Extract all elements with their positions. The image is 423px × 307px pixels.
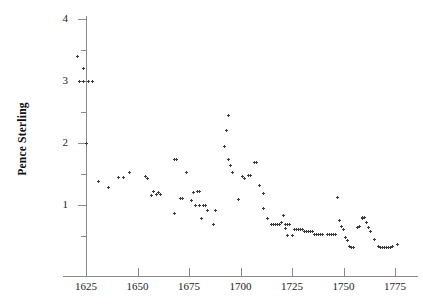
- data-point: [78, 80, 81, 83]
- x-axis-line: [63, 276, 418, 277]
- data-point: [258, 184, 261, 187]
- data-point: [358, 225, 361, 228]
- data-point: [334, 233, 337, 236]
- data-point: [82, 80, 85, 83]
- data-point: [338, 219, 341, 222]
- y-axis-title: Pence Sterling: [16, 79, 28, 199]
- x-tick-major: [241, 268, 242, 276]
- data-point: [262, 192, 265, 195]
- data-point: [200, 217, 203, 220]
- x-tick-major: [189, 268, 190, 276]
- data-point: [255, 161, 258, 164]
- data-point: [82, 67, 85, 70]
- x-tick-label: 1700: [221, 281, 261, 292]
- data-point: [284, 227, 287, 230]
- data-point: [146, 177, 149, 180]
- y-tick-label: 2: [28, 137, 68, 148]
- x-tick-major: [292, 268, 293, 276]
- data-point: [107, 186, 110, 189]
- data-point: [291, 234, 294, 237]
- y-axis-line: [86, 16, 87, 277]
- data-point: [227, 158, 230, 161]
- x-tick-label: 1775: [375, 281, 415, 292]
- data-point: [237, 198, 240, 201]
- data-point: [266, 217, 269, 220]
- data-point: [175, 158, 178, 161]
- data-point: [282, 214, 285, 217]
- data-point: [229, 164, 232, 167]
- data-point: [173, 212, 176, 215]
- data-point: [346, 239, 349, 242]
- data-point: [336, 196, 339, 199]
- data-point: [85, 142, 88, 145]
- data-point: [286, 234, 289, 237]
- y-tick-minor: [81, 50, 86, 51]
- data-point: [185, 171, 188, 174]
- data-point: [288, 223, 291, 226]
- y-tick-label: 1: [28, 199, 68, 210]
- data-point: [190, 199, 193, 202]
- x-tick-major: [138, 268, 139, 276]
- data-point: [206, 209, 209, 212]
- data-point: [361, 216, 364, 219]
- data-point: [192, 191, 195, 194]
- data-point: [225, 129, 228, 132]
- scatter-chart: Pence Sterling 1234 16251650167517001725…: [0, 0, 423, 307]
- data-point: [157, 191, 160, 194]
- data-point: [396, 243, 399, 246]
- data-point: [352, 246, 355, 249]
- y-tick-label: 3: [28, 75, 68, 86]
- data-point: [321, 233, 324, 236]
- data-point: [280, 221, 283, 224]
- y-tick-major: [78, 205, 86, 206]
- y-tick-minor: [81, 174, 86, 175]
- data-point: [150, 194, 153, 197]
- data-point: [117, 176, 120, 179]
- data-point: [91, 80, 94, 83]
- y-tick-label: 4: [28, 13, 68, 24]
- y-tick-major: [78, 19, 86, 20]
- x-tick-major: [395, 268, 396, 276]
- data-point: [223, 145, 226, 148]
- data-point: [231, 171, 234, 174]
- data-point: [373, 238, 376, 241]
- data-point: [344, 236, 347, 239]
- data-point: [342, 228, 345, 231]
- y-tick-minor: [81, 236, 86, 237]
- x-tick-major: [344, 268, 345, 276]
- data-point: [198, 204, 201, 207]
- data-point: [391, 245, 394, 248]
- y-tick-minor: [81, 112, 86, 113]
- data-point: [76, 55, 79, 58]
- data-point: [262, 207, 265, 210]
- data-point: [181, 197, 184, 200]
- data-point: [87, 80, 90, 83]
- data-point: [249, 174, 252, 177]
- data-point: [227, 114, 230, 117]
- data-point: [204, 204, 207, 207]
- data-point: [122, 176, 125, 179]
- x-tick-label: 1675: [169, 281, 209, 292]
- data-point: [97, 180, 100, 183]
- x-tick-major: [86, 268, 87, 276]
- x-tick-label: 1625: [66, 281, 106, 292]
- data-point: [212, 223, 215, 226]
- x-tick-label: 1725: [272, 281, 312, 292]
- x-tick-label: 1750: [324, 281, 364, 292]
- data-point: [243, 177, 246, 180]
- x-tick-label: 1650: [118, 281, 158, 292]
- data-point: [198, 190, 201, 193]
- data-point: [365, 221, 368, 224]
- data-point: [194, 204, 197, 207]
- data-point: [128, 171, 131, 174]
- data-point: [369, 230, 372, 233]
- data-point: [214, 209, 217, 212]
